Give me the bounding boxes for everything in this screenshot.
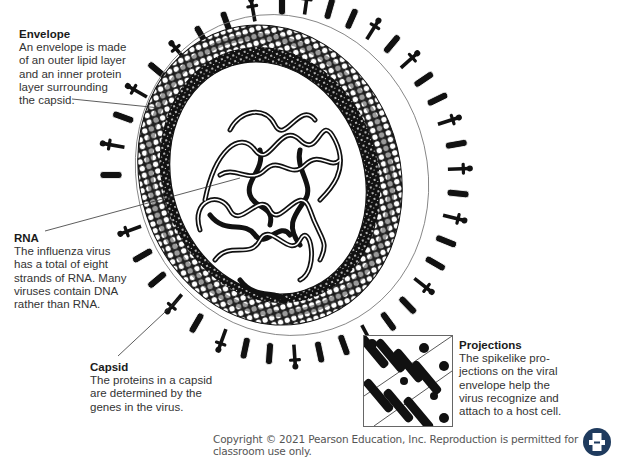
- print-button[interactable]: [583, 428, 611, 456]
- print-icon: [583, 428, 611, 456]
- projections-closeup-icon: [364, 336, 452, 426]
- envelope-description: An envelope is made of an outer lipid la…: [19, 41, 126, 107]
- rna-label: RNA The influenza virus has a total of e…: [14, 232, 126, 311]
- envelope-label: Envelope An envelope is made of an outer…: [19, 28, 126, 107]
- capsid-label: Capsid The proteins in a capsid are dete…: [90, 361, 212, 414]
- copyright-notice: Copyright © 2021 Pearson Education, Inc.…: [213, 433, 619, 457]
- projections-label: Projections The spikelike pro- jections …: [459, 339, 561, 418]
- rna-title: RNA: [14, 232, 126, 245]
- projections-description: The spikelike pro- jections on the viral…: [459, 352, 561, 418]
- rna-description: The influenza virus has a total of eight…: [14, 245, 126, 311]
- projections-inset: [363, 335, 453, 427]
- capsid-leader: [118, 298, 180, 356]
- projections-title: Projections: [459, 339, 561, 352]
- capsid-title: Capsid: [90, 361, 212, 374]
- capsid-description: The proteins in a capsid are determined …: [90, 374, 212, 414]
- envelope-title: Envelope: [19, 28, 126, 41]
